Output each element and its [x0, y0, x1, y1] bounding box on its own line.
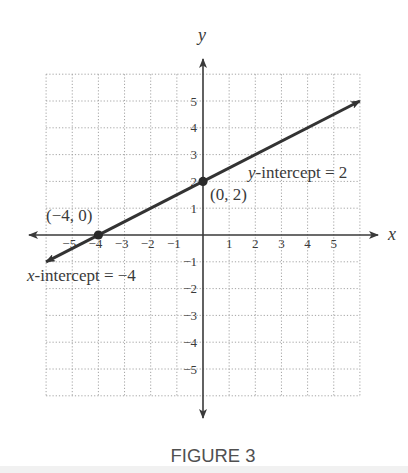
y-intercept-annotation: y-intercept = 2	[246, 163, 347, 182]
y-tick-label: 4	[191, 120, 198, 135]
x-intercept-annotation: x-intercept = −4	[26, 266, 136, 285]
y-tick-label: 1	[191, 201, 198, 216]
y-tick-label: 5	[191, 94, 198, 109]
point-label-y-intercept: (0, 2)	[210, 185, 247, 204]
x-tick-label: 3	[278, 236, 285, 251]
intercept-point	[198, 177, 207, 186]
x-tick-label: 4	[304, 236, 311, 251]
x-tick-label: 1	[226, 236, 233, 251]
y-tick-label: −5	[183, 362, 197, 377]
y-tick-label: −4	[183, 335, 197, 350]
x-axis-label: x	[387, 224, 396, 244]
x-tick-label: 5	[331, 236, 338, 251]
intercept-point	[94, 230, 103, 239]
x-tick-label: −1	[167, 236, 181, 251]
y-var: y	[246, 163, 256, 182]
axes	[29, 59, 378, 418]
annotations: (−4, 0) (0, 2) y-intercept = 2 x-interce…	[26, 25, 396, 466]
x-tick-label: −3	[115, 236, 129, 251]
x-tick-label: −2	[141, 236, 155, 251]
y-axis-label: y	[196, 25, 206, 45]
y-tick-label: −1	[183, 254, 197, 269]
x-tick-label: 2	[252, 236, 259, 251]
y-tick-label: −2	[183, 281, 197, 296]
y-intercept-text: -intercept = 2	[256, 163, 348, 182]
y-tick-label: −3	[183, 308, 197, 323]
figure: −5−4−3−2−11234554321−1−2−3−4−5 (−4, 0) (…	[0, 0, 408, 473]
bottom-band	[0, 466, 408, 473]
figure-caption: FIGURE 3	[171, 445, 256, 466]
coordinate-plane: −5−4−3−2−11234554321−1−2−3−4−5 (−4, 0) (…	[0, 0, 408, 473]
x-intercept-text: -intercept = −4	[35, 266, 137, 285]
point-label-x-intercept: (−4, 0)	[46, 206, 92, 225]
y-tick-label: 3	[191, 147, 198, 162]
